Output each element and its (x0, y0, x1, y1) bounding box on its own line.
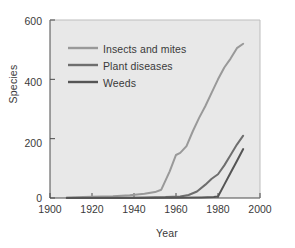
legend-label-plant-diseases: Plant diseases (103, 60, 173, 72)
x-tick-label-1940: 1940 (112, 203, 156, 215)
chart-figure: Species Year 600 400 200 0 1900 1920 194… (0, 0, 295, 248)
y-tick-label-400: 400 (8, 76, 42, 88)
x-tick-label-2000: 2000 (238, 203, 282, 215)
x-tick-label-1980: 1980 (196, 203, 240, 215)
x-tick-label-1960: 1960 (154, 203, 198, 215)
x-tick-label-1920: 1920 (70, 203, 114, 215)
legend-label-insects-and-mites: Insects and mites (103, 43, 186, 55)
y-tick-label-200: 200 (8, 137, 42, 149)
y-tick-label-600: 600 (8, 15, 42, 27)
x-axis-title: Year (52, 227, 282, 239)
legend-label-weeds: Weeds (103, 77, 136, 89)
x-tick-label-1900: 1900 (28, 203, 72, 215)
